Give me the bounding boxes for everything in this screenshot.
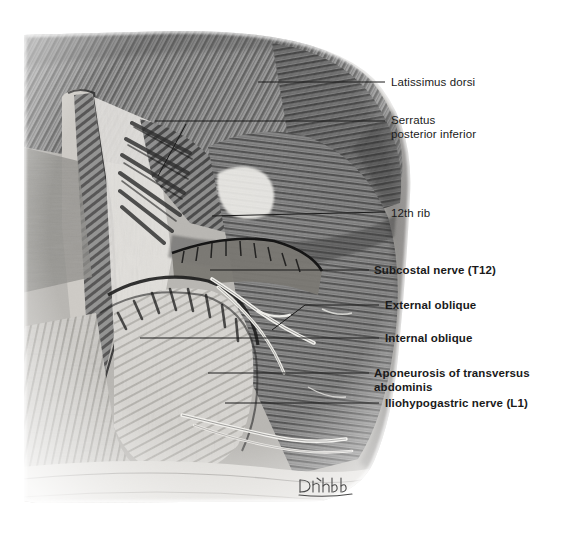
label-aponeurosis-of-transversus-abdominis: Aponeurosis of transversus abdominis — [374, 366, 562, 395]
label-twelfth-rib: 12th rib — [391, 206, 430, 220]
drawing-canvas — [22, 27, 422, 507]
label-subcostal-nerve-t12: Subcostal nerve (T12) — [374, 263, 496, 277]
anatomy-figure: Latissimus dorsiSerratus posterior infer… — [0, 0, 562, 534]
label-external-oblique: External oblique — [385, 298, 476, 312]
specimen-body — [22, 27, 422, 507]
label-latissimus-dorsi: Latissimus dorsi — [391, 75, 475, 89]
label-iliohypogastric-nerve-l1: Iliohypogastric nerve (L1) — [385, 396, 528, 410]
anatomical-drawing — [22, 27, 422, 507]
label-internal-oblique: Internal oblique — [385, 331, 472, 345]
label-serratus-posterior-inferior: Serratus posterior inferior — [391, 113, 476, 142]
